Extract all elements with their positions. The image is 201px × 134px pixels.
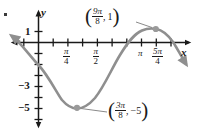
y-tick-label-minus3: −3 xyxy=(18,79,30,91)
corner-speck xyxy=(4,13,7,16)
pi-over-2-denominator: 2 xyxy=(93,57,100,66)
min-y-value: −5 xyxy=(129,105,142,116)
maximum-point-marker xyxy=(153,26,159,32)
max-y-value: 1 xyxy=(106,11,113,22)
x-tick-label-5pi-over-4: 5π 4 xyxy=(152,47,163,66)
maximum-leader-line xyxy=(136,22,152,28)
y-tick-label-1: 1 xyxy=(25,25,31,37)
min-x-denominator: 8 xyxy=(115,111,126,120)
x-tick-label-pi-over-4: π 4 xyxy=(63,47,70,66)
min-open-paren: ( xyxy=(108,101,115,120)
minimum-leader-line xyxy=(81,109,107,113)
maximum-point-label: ( 9π 8 , 1 ) xyxy=(85,7,120,26)
graph-figure: y x 1 −3 −5 π 4 π 2 π 5π 4 ( 9π 8 , 1 ) xyxy=(0,0,201,134)
pi-over-4-denominator: 4 xyxy=(63,57,70,66)
y-axis-label: y xyxy=(41,6,46,18)
y-tick-label-minus5: −5 xyxy=(18,101,30,113)
x-tick-label-pi: π xyxy=(138,48,143,58)
max-x-denominator: 8 xyxy=(92,17,103,26)
five-pi-over-4-denominator: 4 xyxy=(152,57,163,66)
x-tick-label-pi-over-2: π 2 xyxy=(93,47,100,66)
max-open-paren: ( xyxy=(85,7,92,26)
minimum-point-label: ( 3π 8 , −5 ) xyxy=(108,101,148,120)
x-axis-label: x xyxy=(181,46,187,58)
min-close-paren: ) xyxy=(141,101,148,120)
max-close-paren: ) xyxy=(113,7,120,26)
minimum-point-marker xyxy=(74,105,80,111)
